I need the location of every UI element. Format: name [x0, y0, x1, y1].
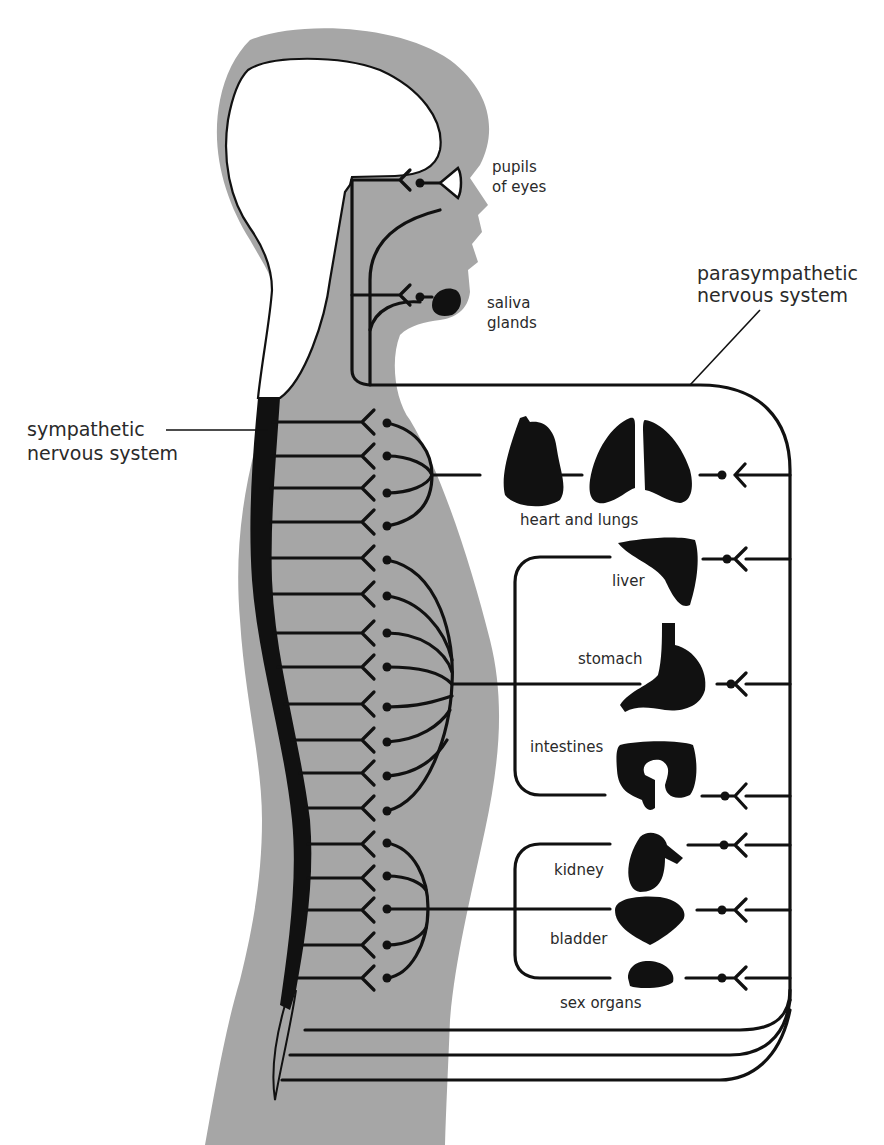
heart-shape [504, 416, 564, 506]
label-saliva-2: glands [487, 314, 537, 332]
label-stomach: stomach [578, 650, 642, 668]
label-parasympathetic-1: parasympathetic [697, 262, 858, 284]
sex-organs-shape [628, 961, 673, 988]
label-heart-lungs: heart and lungs [520, 511, 638, 529]
label-bladder: bladder [550, 930, 608, 948]
intestines-shape [616, 741, 696, 810]
label-sympathetic-2: nervous system [27, 442, 178, 464]
label-kidney: kidney [554, 861, 604, 879]
label-parasympathetic-2: nervous system [697, 284, 848, 306]
label-saliva-1: saliva [487, 294, 530, 312]
label-pupils-1: pupils [492, 158, 537, 176]
label-intestines: intestines [530, 738, 603, 756]
label-sex-organs: sex organs [560, 994, 642, 1012]
label-sympathetic-1: sympathetic [27, 418, 145, 440]
kidney-shape [628, 833, 683, 892]
bladder-shape [615, 896, 684, 945]
label-pupils-2: of eyes [492, 178, 547, 196]
autonomic-nervous-system-diagram: pupils of eyes saliva glands parasympath… [0, 0, 884, 1145]
label-liver: liver [612, 572, 645, 590]
right-lung-shape [643, 420, 692, 503]
left-lung-shape [590, 418, 635, 504]
